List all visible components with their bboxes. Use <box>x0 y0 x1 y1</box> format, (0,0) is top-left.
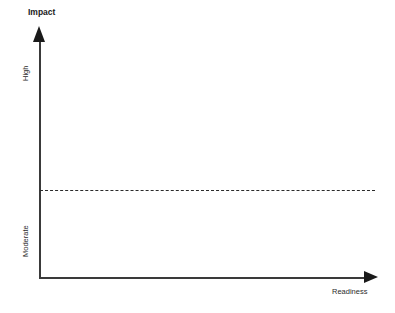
x-axis-line <box>39 277 366 279</box>
threshold-dashed-line <box>40 190 375 191</box>
y-axis-tick-label-high: High <box>22 66 30 81</box>
y-axis-title: Impact <box>28 8 55 17</box>
y-axis-arrowhead-icon <box>33 26 45 42</box>
chart-canvas: Impact Readiness High Moderate <box>0 0 395 313</box>
x-axis-arrowhead-icon <box>364 271 378 283</box>
y-axis-tick-label-moderate: Moderate <box>22 225 30 257</box>
x-axis-title: Readiness <box>332 288 367 296</box>
y-axis-line <box>39 40 41 278</box>
